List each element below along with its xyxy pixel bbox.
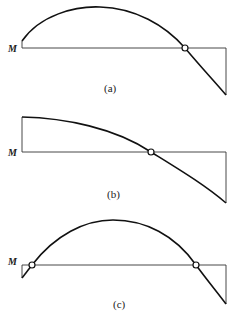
- caption-b: (b): [107, 188, 120, 201]
- axis-label-b: M: [7, 147, 18, 158]
- diagram-a: M (a): [7, 7, 226, 95]
- caption-c: (c): [113, 298, 126, 311]
- moment-diagrams: M (a) M (b) M (c): [0, 0, 235, 316]
- moment-curve-a: [22, 7, 226, 95]
- diagram-b: M (b): [7, 117, 226, 203]
- diagram-c: M (c): [7, 220, 226, 311]
- inflection-point-c-left: [29, 262, 35, 268]
- moment-curve-b: [22, 117, 226, 203]
- axis-label-c: M: [7, 256, 18, 267]
- inflection-point-a: [182, 45, 188, 51]
- inflection-point-c-right: [193, 262, 199, 268]
- caption-a: (a): [104, 82, 117, 95]
- inflection-point-b: [148, 149, 154, 155]
- axis-label-a: M: [7, 43, 18, 54]
